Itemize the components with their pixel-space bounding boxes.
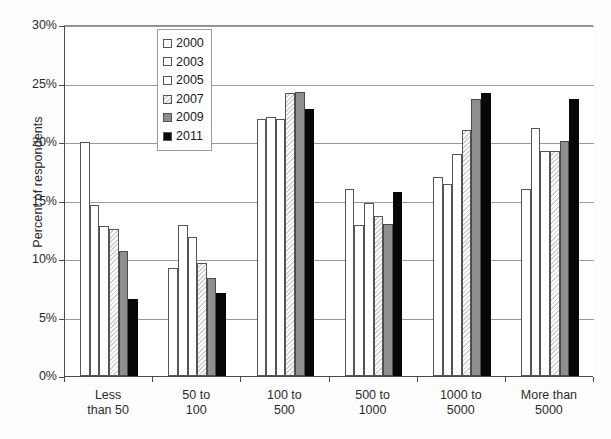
gridline <box>65 26 594 27</box>
x-category-label: 1000 to5000 <box>417 388 505 418</box>
legend-item-2000[interactable]: 2000 <box>163 34 204 53</box>
x-category-label: 100 to500 <box>240 388 328 418</box>
legend-swatch-icon <box>163 95 172 104</box>
legend-item-2011[interactable]: 2011 <box>163 127 204 146</box>
legend-swatch-icon <box>163 132 172 141</box>
bar-2000-2 <box>257 119 267 376</box>
bar-2009-1 <box>207 278 217 376</box>
legend-swatch-icon <box>163 39 172 48</box>
bar-2003-2 <box>266 117 276 376</box>
x-category-label: 500 to1000 <box>329 388 417 418</box>
x-category-label: More than5000 <box>505 388 593 418</box>
y-tick-label: 15% <box>11 194 57 208</box>
bar-2005-5 <box>540 151 550 376</box>
bar-2003-0 <box>90 205 100 376</box>
legend-label: 2005 <box>176 74 204 87</box>
bar-2003-5 <box>531 128 541 376</box>
x-tick-mark <box>505 377 506 382</box>
bar-2011-4 <box>481 93 491 376</box>
bar-2007-0 <box>109 229 119 376</box>
x-tick-mark <box>64 377 65 382</box>
gridline <box>65 143 594 144</box>
legend: 200020032005200720092011 <box>157 29 212 151</box>
x-tick-mark <box>152 377 153 382</box>
x-category-label: 50 to100 <box>152 388 240 418</box>
bar-2009-4 <box>471 99 481 376</box>
y-tick-mark <box>59 202 64 203</box>
legend-label: 2007 <box>176 93 204 106</box>
bar-2007-3 <box>374 216 384 376</box>
bar-2005-1 <box>188 237 198 376</box>
bar-2011-5 <box>569 99 579 376</box>
legend-label: 2000 <box>176 37 204 50</box>
bar-2007-4 <box>462 130 472 376</box>
y-tick-label: 20% <box>11 135 57 149</box>
legend-item-2009[interactable]: 2009 <box>163 108 204 127</box>
legend-item-2005[interactable]: 2005 <box>163 71 204 90</box>
bar-2000-0 <box>80 142 90 376</box>
legend-swatch-icon <box>163 76 172 85</box>
bar-2007-2 <box>285 93 295 376</box>
bar-2007-1 <box>197 263 207 376</box>
bar-2000-1 <box>168 268 178 376</box>
bar-2011-2 <box>305 109 315 376</box>
bar-2009-5 <box>560 141 570 376</box>
y-tick-mark <box>59 143 64 144</box>
y-tick-mark <box>59 319 64 320</box>
y-tick-label: 25% <box>11 77 57 91</box>
bar-2011-0 <box>128 299 138 376</box>
x-category-label: Lessthan 50 <box>64 388 152 418</box>
plot-area <box>64 26 593 377</box>
y-tick-mark <box>59 260 64 261</box>
x-tick-mark <box>329 377 330 382</box>
legend-swatch-icon <box>163 57 172 66</box>
bar-2003-3 <box>354 225 364 376</box>
bar-2000-4 <box>433 177 443 376</box>
bar-2009-0 <box>119 251 129 376</box>
y-tick-label: 10% <box>11 252 57 266</box>
legend-label: 2003 <box>176 56 204 69</box>
gridline <box>65 260 594 261</box>
y-tick-mark <box>59 26 64 27</box>
gridline <box>65 319 594 320</box>
legend-item-2003[interactable]: 2003 <box>163 53 204 72</box>
y-tick-label: 30% <box>11 18 57 32</box>
x-tick-mark <box>593 377 594 382</box>
bar-2005-0 <box>99 226 109 376</box>
bar-2003-4 <box>443 184 453 376</box>
y-tick-mark <box>59 85 64 86</box>
bar-2005-4 <box>452 154 462 376</box>
bar-2011-3 <box>393 192 403 376</box>
y-tick-label: 5% <box>11 311 57 325</box>
bar-2003-1 <box>178 225 188 376</box>
bar-2005-3 <box>364 203 374 376</box>
legend-swatch-icon <box>163 113 172 122</box>
bar-2007-5 <box>550 151 560 376</box>
bar-2000-5 <box>521 189 531 376</box>
gridline <box>65 202 594 203</box>
bar-chart: Percent of respondents 30%25%20%15%10%5%… <box>0 0 611 439</box>
bar-2009-3 <box>383 224 393 376</box>
bar-2005-2 <box>276 119 286 376</box>
legend-item-2007[interactable]: 2007 <box>163 90 204 109</box>
y-tick-label: 0% <box>11 369 57 383</box>
bar-2011-1 <box>216 293 226 376</box>
legend-label: 2009 <box>176 111 204 124</box>
x-tick-mark <box>417 377 418 382</box>
gridline <box>65 85 594 86</box>
legend-label: 2011 <box>176 130 203 143</box>
bar-2009-2 <box>295 92 305 376</box>
bar-2000-3 <box>345 189 355 376</box>
x-tick-mark <box>240 377 241 382</box>
